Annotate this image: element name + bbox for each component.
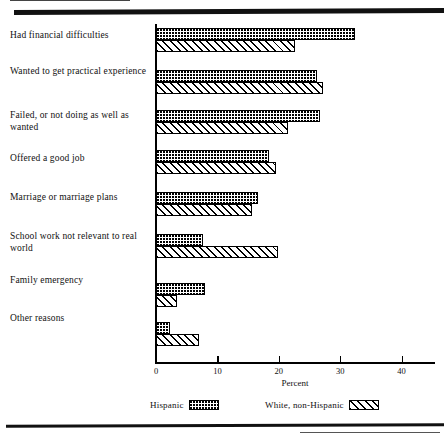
bar-white-nh-6 [156, 295, 177, 307]
x-axis-title: Percent [155, 378, 435, 388]
category-label-5: School work not relevant to real world [10, 231, 152, 254]
grouped-bar-chart: Had financial difficulties Wanted to get… [0, 0, 447, 435]
x-tick-label-3: 30 [328, 366, 352, 376]
x-tick-4 [402, 356, 403, 363]
bar-white-nh-5 [156, 246, 278, 258]
legend-item-white-non-hispanic: White, non-Hispanic [265, 400, 379, 410]
x-axis-line [155, 362, 435, 364]
bar-hispanic-0 [156, 28, 355, 40]
x-tick-0 [156, 356, 157, 363]
legend-swatch-white-non-hispanic-icon [349, 400, 379, 410]
legend-label-white-non-hispanic: White, non-Hispanic [265, 400, 344, 410]
legend-item-hispanic: Hispanic [150, 400, 219, 410]
bar-hispanic-6 [156, 283, 205, 295]
bar-hispanic-5 [156, 234, 203, 246]
category-label-7: Other reasons [10, 313, 152, 325]
x-tick-label-1: 10 [205, 366, 229, 376]
bar-white-nh-3 [156, 162, 276, 174]
category-label-0: Had financial difficulties [10, 30, 152, 42]
x-tick-2 [279, 356, 280, 363]
category-label-3: Offered a good job [10, 153, 152, 165]
x-tick-label-4: 40 [390, 366, 414, 376]
page-bottom-thin-rule [300, 432, 440, 433]
bar-white-nh-0 [156, 40, 295, 52]
bar-hispanic-3 [156, 150, 269, 162]
bar-hispanic-7 [156, 322, 170, 334]
x-tick-label-0: 0 [144, 366, 168, 376]
category-label-4: Marriage or marriage plans [10, 192, 152, 204]
bar-white-nh-2 [156, 122, 288, 134]
bar-hispanic-4 [156, 192, 258, 204]
legend-swatch-hispanic-icon [189, 400, 219, 410]
legend-label-hispanic: Hispanic [150, 400, 184, 410]
category-label-6: Family emergency [10, 275, 152, 287]
bar-hispanic-2 [156, 110, 320, 122]
bar-white-nh-4 [156, 204, 252, 216]
category-label-2: Failed, or not doing as well as wanted [10, 110, 152, 133]
x-tick-1 [217, 356, 218, 363]
x-tick-label-2: 20 [267, 366, 291, 376]
bar-white-nh-1 [156, 82, 323, 94]
bar-white-nh-7 [156, 334, 199, 346]
x-tick-3 [340, 356, 341, 363]
chart-legend: Hispanic White, non-Hispanic [150, 400, 440, 416]
category-label-1: Wanted to get practical experience [10, 66, 152, 78]
bar-hispanic-1 [156, 70, 317, 82]
